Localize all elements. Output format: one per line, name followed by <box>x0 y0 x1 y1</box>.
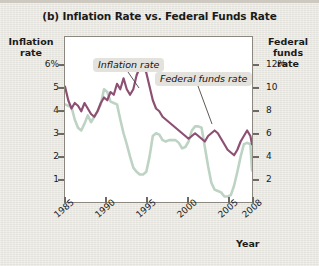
right-tickmark-10 <box>253 87 259 89</box>
right-tick-label-2: 2 <box>266 175 292 184</box>
x-tick-label-1985: 1985 <box>52 197 76 219</box>
x-axis-title: Year <box>236 238 260 249</box>
left-tick-label-4: 4 <box>33 106 59 115</box>
right-tick-label-4: 4 <box>266 152 292 161</box>
annotation-inflation-rate: Inflation rate <box>93 58 164 72</box>
left-tick-label-6: 6% <box>33 60 59 69</box>
right-tick-label-10: 10 <box>266 83 292 92</box>
right-tickmark-12 <box>253 64 259 66</box>
left-axis-title: Inflation rate <box>2 36 60 58</box>
right-tick-label-6: 6 <box>266 129 292 138</box>
right-tickmark-4 <box>253 156 259 158</box>
left-tick-label-2: 2 <box>33 152 59 161</box>
annotation-federal-funds-rate: Federal funds rate <box>155 72 252 86</box>
right-tick-label-8: 8 <box>266 106 292 115</box>
right-axis-title-line2: funds <box>259 47 317 58</box>
page-divider <box>0 0 319 3</box>
left-tick-label-1: 1 <box>33 175 59 184</box>
left-axis-title-line1: Inflation <box>2 36 60 47</box>
right-tick-label-12: 12% <box>266 60 292 69</box>
left-tick-label-3: 3 <box>33 129 59 138</box>
right-axis-title-line1: Federal <box>259 36 317 47</box>
chart-title: (b) Inflation Rate vs. Federal Funds Rat… <box>0 10 319 22</box>
left-axis-title-line2: rate <box>2 47 60 58</box>
right-tickmark-6 <box>253 133 259 135</box>
right-tickmark-2 <box>253 179 259 181</box>
left-tick-label-5: 5 <box>33 83 59 92</box>
chart-figure: (b) Inflation Rate vs. Federal Funds Rat… <box>0 0 319 266</box>
right-tickmark-8 <box>253 110 259 112</box>
